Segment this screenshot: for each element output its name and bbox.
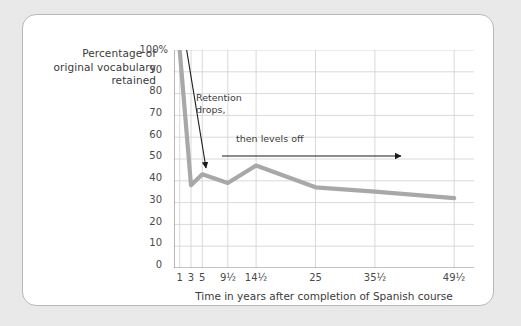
y-tick-label-70: 70 — [128, 107, 162, 118]
x-tick-label-25: 25 — [309, 272, 322, 283]
x-tick-label-3: 3 — [188, 272, 194, 283]
y-tick-label-20: 20 — [128, 216, 162, 227]
y-tick-label-40: 40 — [128, 172, 162, 183]
y-tick-label-50: 50 — [128, 150, 162, 161]
horizontal-gridlines — [174, 50, 474, 246]
x-tick-label-1: 1 — [177, 272, 183, 283]
annotation-levels-off: then levels off — [236, 133, 304, 145]
x-tick-label-35h: 35½ — [364, 272, 386, 283]
x-tick-label-14h: 14½ — [245, 272, 267, 283]
y-tick-label-0: 0 — [128, 259, 162, 270]
y-tick-label-80: 80 — [128, 85, 162, 96]
annotation-retention-drops: Retention drops, — [196, 92, 242, 116]
y-tick-label-60: 60 — [128, 129, 162, 140]
y-tick-label-100: 100% — [128, 44, 168, 55]
data-line-vocabulary-retention — [180, 50, 455, 198]
y-tick-label-30: 30 — [128, 194, 162, 205]
x-axis-title: Time in years after completion of Spanis… — [174, 290, 474, 302]
y-tick-label-90: 90 — [128, 64, 162, 75]
plot-area — [174, 50, 474, 268]
x-tick-label-49h: 49½ — [443, 272, 465, 283]
x-tick-label-9h: 9½ — [220, 272, 236, 283]
annotation-retention-drops-line-2: drops, — [196, 104, 242, 116]
chart-screenshot: Percentage of original vocabulary retain… — [0, 0, 521, 326]
x-tick-label-5: 5 — [199, 272, 205, 283]
y-tick-label-10: 10 — [128, 237, 162, 248]
annotation-retention-drops-line-1: Retention — [196, 92, 242, 104]
